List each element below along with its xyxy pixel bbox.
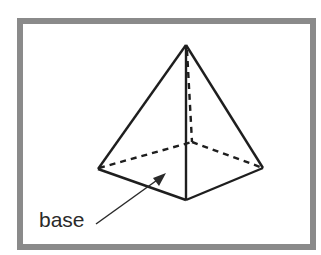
hidden-edges [99, 50, 263, 168]
edge-front-right [186, 168, 263, 200]
arrow-head-icon [153, 173, 166, 186]
arrow-shaft [96, 178, 160, 224]
hidden-edge-back-right [192, 142, 263, 168]
edge-apex-right [186, 45, 263, 168]
edge-apex-left [98, 45, 186, 169]
edge-left-front [98, 169, 186, 200]
visible-edges [98, 45, 263, 200]
pyramid-diagram: base [0, 0, 321, 255]
base-label: base [39, 208, 85, 231]
hidden-edge-apex-back [187, 50, 192, 142]
